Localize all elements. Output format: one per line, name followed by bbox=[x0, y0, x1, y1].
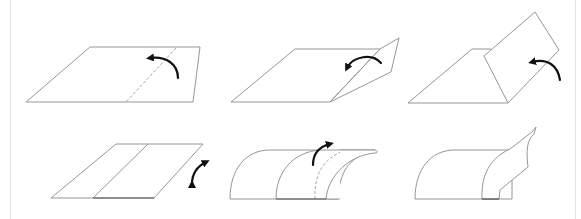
folding-diagram bbox=[0, 0, 581, 219]
sheet-outline bbox=[26, 47, 200, 102]
step-6-curved-flap bbox=[415, 127, 536, 199]
step-5-curled-tunnel bbox=[230, 144, 377, 199]
step-3-flap-upright bbox=[408, 12, 560, 103]
double-curved-arrow-icon bbox=[192, 162, 206, 184]
step-2-flap-lifting bbox=[231, 38, 399, 102]
step-4-creased-sheet bbox=[51, 144, 206, 198]
sheet-outline bbox=[51, 144, 203, 198]
step-1-flat-sheet bbox=[26, 47, 200, 102]
